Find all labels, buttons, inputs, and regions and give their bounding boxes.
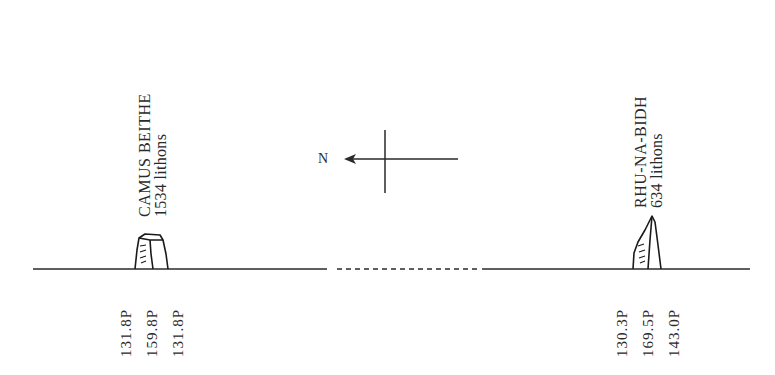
measurement: 131.8P xyxy=(119,309,134,357)
standing-stone-camus-beithe-icon xyxy=(135,234,168,269)
measurement: 169.5P xyxy=(641,309,656,357)
site-count-camus-beithe: 1534 lithons xyxy=(153,134,169,217)
measurement: 130.3P xyxy=(615,309,630,357)
north-arrow-icon xyxy=(344,130,458,193)
site-name-camus-beithe: CAMUS BEITHE xyxy=(137,93,153,217)
standing-stone-rhu-na-bidh-icon xyxy=(633,216,661,269)
measurement: 131.8P xyxy=(171,309,186,357)
site-name-rhu-na-bidh: RHU-NA-BIDH xyxy=(633,96,649,208)
measurement: 159.8P xyxy=(145,309,160,357)
north-label: N xyxy=(318,151,328,167)
measurement: 143.0P xyxy=(667,309,682,357)
site-count-rhu-na-bidh: 634 lithons xyxy=(649,133,665,208)
